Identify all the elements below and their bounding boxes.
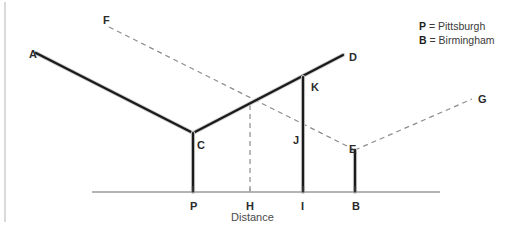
dashed-segments-group bbox=[109, 27, 472, 192]
legend-entry-p: P = Pittsburgh bbox=[419, 19, 495, 33]
legend-key-b: B bbox=[419, 34, 427, 46]
point-label-g: G bbox=[478, 94, 487, 105]
point-label-i: I bbox=[301, 201, 304, 212]
axis-title-distance: Distance bbox=[231, 211, 274, 223]
segment-c-d bbox=[193, 55, 343, 133]
legend-equals-b: = bbox=[427, 34, 439, 46]
legend-key-p: P bbox=[419, 20, 426, 32]
solid-segments-group bbox=[36, 53, 355, 192]
point-label-f: F bbox=[103, 15, 110, 26]
point-label-p: P bbox=[190, 201, 197, 212]
legend-equals-p: = bbox=[426, 20, 438, 32]
distance-diagram-figure: AFDKGCJEPHIB Distance P = PittsburghB = … bbox=[0, 0, 523, 228]
legend: P = PittsburghB = Birmingham bbox=[419, 19, 495, 47]
point-label-j: J bbox=[293, 135, 299, 146]
legend-entry-b: B = Birmingham bbox=[419, 33, 495, 47]
point-label-e: E bbox=[349, 144, 356, 155]
point-label-b: B bbox=[352, 201, 360, 212]
segment-e-g bbox=[355, 99, 472, 150]
point-label-k: K bbox=[311, 82, 319, 93]
point-label-d: D bbox=[349, 52, 357, 63]
legend-name-b: Birmingham bbox=[439, 34, 495, 46]
axis-group bbox=[92, 186, 440, 192]
segment-a-c bbox=[36, 53, 193, 133]
legend-name-p: Pittsburgh bbox=[438, 20, 485, 32]
point-label-a: A bbox=[29, 49, 37, 60]
point-label-c: C bbox=[197, 140, 205, 151]
